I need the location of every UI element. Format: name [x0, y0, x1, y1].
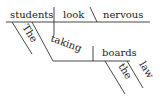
subject-modifier-word: The: [20, 22, 39, 44]
predicate-adjective-word: nervous: [103, 9, 143, 20]
object-modifier-word: law: [137, 59, 156, 80]
sentence-diagram: students look nervous The taking boards …: [0, 0, 160, 101]
predicate-adjective-slash: [90, 7, 97, 22]
subject-word: students: [10, 9, 54, 20]
participle-word: taking: [49, 33, 83, 55]
object-article-word: the: [116, 61, 134, 81]
object-word: boards: [102, 47, 137, 58]
verb-word: look: [63, 9, 85, 20]
